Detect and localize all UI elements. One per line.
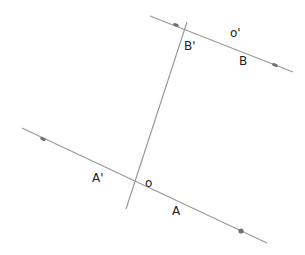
point-b-right <box>272 62 279 67</box>
transversal-line <box>126 22 187 209</box>
diagram-canvas: B' o' B A' o A <box>0 0 305 255</box>
label-a: A <box>172 205 180 217</box>
diagram-lines <box>0 0 305 255</box>
label-b-prime: B' <box>184 40 196 52</box>
label-o-prime: o' <box>230 27 241 39</box>
label-a-prime: A' <box>92 172 104 184</box>
label-o: o <box>145 177 152 189</box>
label-b: B <box>239 55 247 67</box>
line-b <box>150 16 293 72</box>
point-a-right <box>238 228 243 233</box>
